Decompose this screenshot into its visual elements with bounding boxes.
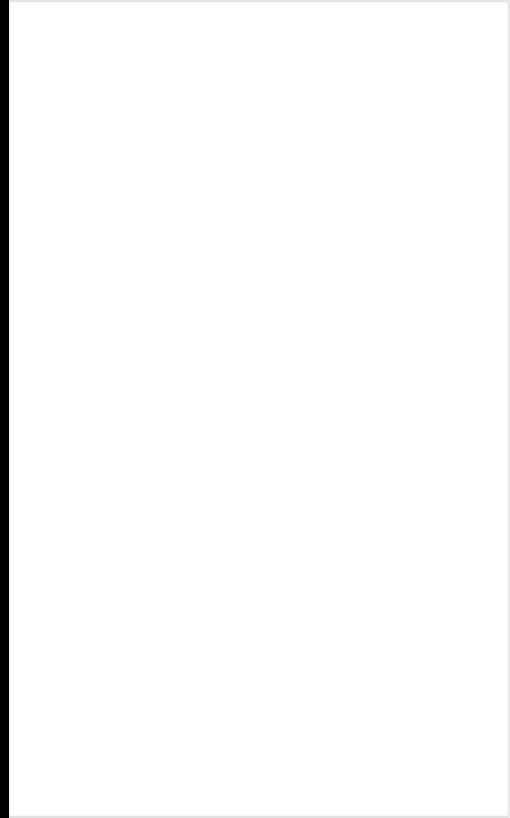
- blank-page-canvas: [9, 0, 510, 818]
- window-left-edge: [0, 0, 9, 818]
- top-border: [9, 0, 510, 2]
